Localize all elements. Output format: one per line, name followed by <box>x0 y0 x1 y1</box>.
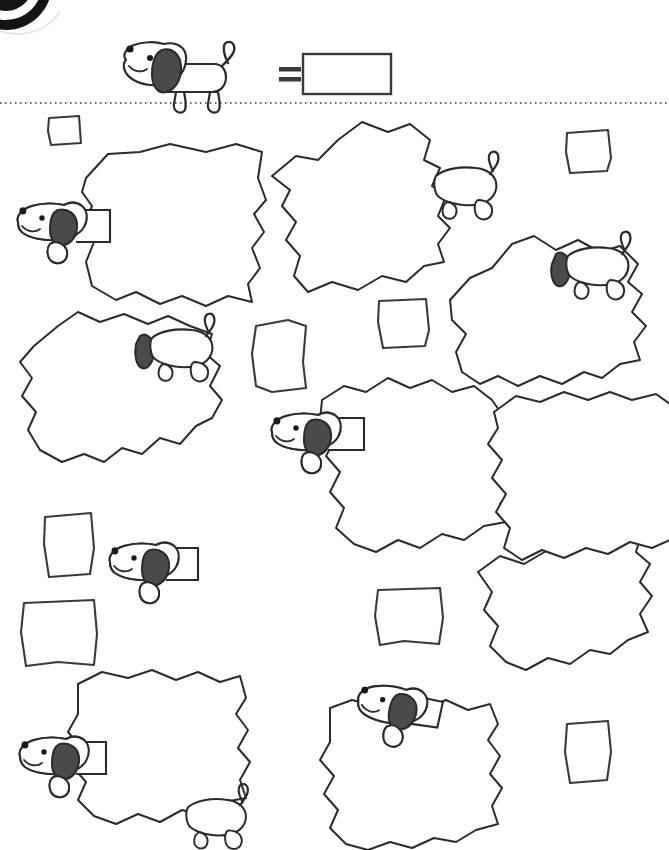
corner-badge-icon <box>0 0 79 34</box>
small-square <box>48 116 81 145</box>
small-square <box>21 600 97 666</box>
dog-figure <box>110 543 198 603</box>
blob-shape <box>272 122 450 292</box>
small-square <box>565 721 611 783</box>
small-square <box>252 320 306 392</box>
header-key-dog <box>124 42 234 113</box>
blob-shape <box>488 392 669 560</box>
small-square <box>375 588 443 645</box>
blob-shape <box>320 378 514 552</box>
worksheet-canvas <box>0 0 669 850</box>
small-square <box>378 299 429 348</box>
worksheet-page <box>0 0 669 850</box>
equals-sign <box>279 67 301 82</box>
small-square <box>44 513 94 577</box>
small-square <box>566 130 611 173</box>
dog-figure <box>434 152 498 220</box>
answer-box[interactable] <box>303 54 391 94</box>
